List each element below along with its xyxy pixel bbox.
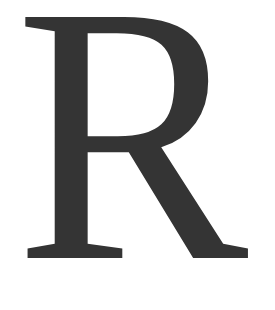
letter-r-glyph: R <box>6 0 258 310</box>
